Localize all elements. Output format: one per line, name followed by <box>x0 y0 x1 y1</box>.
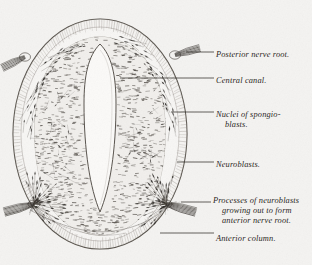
label-processes-line-2: growing out to form <box>222 206 292 216</box>
label-nuclei-of-spongioblasts-1: Nuclei of spongio- <box>216 110 281 120</box>
label-posterior-nerve-root: Posterior nerve root. <box>216 50 289 60</box>
label-processes-line-3: anterior nerve root. <box>222 216 291 226</box>
label-neuroblasts: Neuroblasts. <box>216 160 260 170</box>
label-processes-line-1: Processes of neuroblasts <box>213 196 299 206</box>
label-nuclei-of-spongioblasts-2: blasts. <box>225 120 248 130</box>
label-anterior-column: Anterior column. <box>216 234 276 244</box>
label-central-canal: Central canal. <box>216 76 267 86</box>
